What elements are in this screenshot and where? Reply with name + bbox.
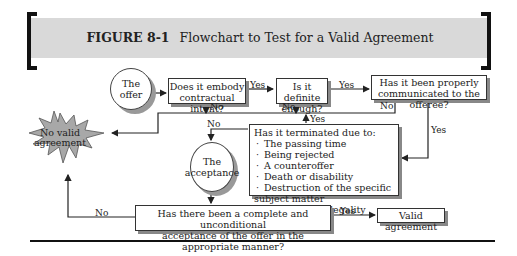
node-contractual-intent-line2: contractual intent? bbox=[169, 92, 245, 114]
edge-label-intent-no: No bbox=[210, 102, 223, 112]
termination-reason: A counteroffer bbox=[254, 160, 394, 171]
node-the-acceptance: The acceptance bbox=[190, 142, 234, 192]
edge-label-complete-yes: Yes bbox=[340, 206, 355, 216]
node-terminated: Has it terminated due to: The passing ti… bbox=[249, 124, 399, 196]
no-valid-line2: agreement bbox=[28, 138, 92, 148]
bottom-rule bbox=[30, 240, 495, 242]
node-properly-communicated: Has it been properly communicated to the… bbox=[371, 75, 487, 100]
edge-label-definite-no: No bbox=[282, 102, 295, 112]
node-the-offer-label: The offer bbox=[111, 78, 151, 100]
node-the-offer: The offer bbox=[110, 68, 152, 110]
edge-label-communicated-no: No bbox=[380, 101, 393, 111]
node-definite-enough: Is it definite enough? bbox=[276, 78, 328, 104]
node-contractual-intent: Does it embody contractual intent? bbox=[168, 78, 246, 104]
node-acceptance-line1: The bbox=[203, 156, 221, 167]
termination-reason: Death or disability bbox=[254, 171, 394, 182]
node-no-valid-agreement: No valid agreement bbox=[28, 128, 92, 148]
edge-label-terminated-no: No bbox=[207, 119, 220, 129]
termination-reasons-list: The passing time Being rejected A counte… bbox=[254, 138, 394, 215]
node-complete-acceptance-line1: Has there been a complete and unconditio… bbox=[136, 208, 330, 230]
termination-reason: Being rejected bbox=[254, 149, 394, 160]
termination-reason: The passing time bbox=[254, 138, 394, 149]
node-contractual-intent-line1: Does it embody bbox=[169, 81, 245, 92]
node-complete-acceptance: Has there been a complete and unconditio… bbox=[135, 205, 331, 231]
node-communicated-line1: Has it been properly bbox=[372, 77, 486, 88]
edge-label-intent-yes: Yes bbox=[250, 80, 265, 90]
node-terminated-heading: Has it terminated due to: bbox=[254, 127, 394, 138]
edge-label-communicated-yes: Yes bbox=[431, 125, 446, 135]
node-valid-agreement-label: Valid agreement bbox=[385, 210, 437, 232]
edge-label-definite-yes: Yes bbox=[339, 80, 354, 90]
edge-label-complete-no: No bbox=[95, 208, 108, 218]
termination-reason: Destruction of the specific subject matt… bbox=[254, 182, 394, 204]
edge-label-terminated-yes: Yes bbox=[310, 114, 325, 124]
node-definite-line1: Is it definite bbox=[277, 81, 327, 103]
node-acceptance-line2: acceptance bbox=[185, 167, 240, 178]
node-valid-agreement: Valid agreement bbox=[377, 208, 445, 223]
